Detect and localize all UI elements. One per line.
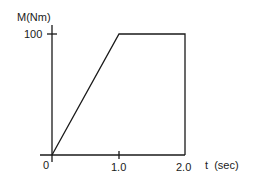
- x-tick-label-1: 1.0: [111, 162, 126, 173]
- y-axis-label: M(Nm): [17, 12, 51, 23]
- x-axis-label: t (sec): [205, 160, 239, 171]
- chart-canvas: [0, 0, 253, 180]
- x-tick-label-2: 2.0: [176, 162, 191, 173]
- y-tick-label-100: 100: [24, 29, 42, 40]
- origin-label: 0: [43, 160, 49, 171]
- moment-curve: [52, 34, 185, 155]
